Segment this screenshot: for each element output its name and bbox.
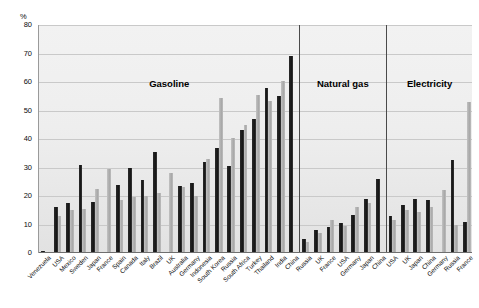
bar-light [58, 216, 62, 253]
bar-group [399, 25, 411, 253]
bar-group [262, 25, 274, 253]
chart-figure: % 01020304050607080 GasolineNatural gasE… [0, 0, 479, 308]
plot-area: GasolineNatural gasElectricity [38, 25, 472, 253]
y-tick-label: 50 [24, 107, 32, 115]
x-axis-label: USA [385, 254, 399, 268]
x-axis-label: Brazil [147, 254, 163, 270]
x-axis-label: Venezuela [26, 254, 52, 280]
bar-group [324, 25, 336, 253]
bar-light [107, 169, 111, 253]
bar-group [200, 25, 212, 253]
bar-light [405, 210, 409, 253]
bar-group [126, 25, 138, 253]
bar-dark [289, 56, 293, 253]
bar-light [219, 98, 223, 253]
bar-group [312, 25, 324, 253]
bar-light [318, 233, 322, 253]
bar-group [237, 25, 249, 253]
bar-light [454, 225, 458, 254]
y-tick-label: 20 [24, 192, 32, 200]
bar-group [64, 25, 76, 253]
bar-group [448, 25, 460, 253]
section-divider [299, 25, 300, 253]
bar-light [206, 159, 210, 253]
y-axis-ticks: 01020304050607080 [0, 25, 36, 253]
bar-group [76, 25, 88, 253]
axis-baseline [39, 252, 472, 253]
bar-light [330, 220, 334, 253]
section-header-electricity: Electricity [407, 78, 452, 89]
bar-group [349, 25, 361, 253]
bar-series-container [39, 25, 472, 253]
y-tick-label: 60 [24, 78, 32, 86]
y-tick-label: 80 [24, 21, 32, 29]
bar-group [113, 25, 125, 253]
bar-light [231, 138, 235, 253]
bar-group [423, 25, 435, 253]
section-header-gasoline: Gasoline [149, 78, 189, 89]
bar-light [95, 189, 99, 253]
bar-light [132, 197, 136, 253]
bar-group [386, 25, 398, 253]
section-divider [386, 25, 387, 253]
bar-group [287, 25, 299, 253]
bar-light [194, 196, 198, 253]
bar-group [213, 25, 225, 253]
bar-group [299, 25, 311, 253]
section-header-natural-gas: Natural gas [317, 78, 369, 89]
bar-light [70, 210, 74, 253]
bar-group [138, 25, 150, 253]
bar-group [39, 25, 51, 253]
bar-light [368, 203, 372, 253]
bar-light [392, 220, 396, 253]
bar-group [436, 25, 448, 253]
bar-light [268, 101, 272, 253]
bar-group [51, 25, 63, 253]
bar-group [101, 25, 113, 253]
x-axis-category-labels: VenezuelaUSAMexicoSwedenJapanFranceSpain… [38, 254, 472, 308]
bar-light [244, 125, 248, 253]
bar-group [411, 25, 423, 253]
bar-group [151, 25, 163, 253]
bar-group [361, 25, 373, 253]
bar-light [417, 212, 421, 253]
bar-light [442, 190, 446, 253]
bar-group [275, 25, 287, 253]
y-tick-label: 70 [24, 50, 32, 58]
bar-group [163, 25, 175, 253]
bar-group [337, 25, 349, 253]
bar-light [430, 207, 434, 253]
bar-light [82, 209, 86, 253]
bar-light [355, 207, 359, 253]
y-tick-label: 40 [24, 135, 32, 143]
bar-light [144, 196, 148, 253]
bar-light [169, 173, 173, 253]
bar-group [175, 25, 187, 253]
bar-light [182, 187, 186, 253]
bar-light [157, 193, 161, 253]
bar-light [467, 102, 471, 253]
bar-group [461, 25, 473, 253]
bar-light [343, 226, 347, 253]
bar-light [256, 95, 260, 253]
bar-group [188, 25, 200, 253]
y-tick-label: 0 [28, 249, 32, 257]
bar-group [250, 25, 262, 253]
bar-group [374, 25, 386, 253]
y-tick-label: 30 [24, 164, 32, 172]
bar-light [281, 81, 285, 253]
bar-group [89, 25, 101, 253]
bar-dark [376, 179, 380, 253]
bar-group [225, 25, 237, 253]
y-tick-label: 10 [24, 221, 32, 229]
bar-light [120, 200, 124, 253]
